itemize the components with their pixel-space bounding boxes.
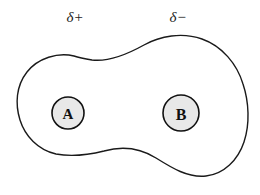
partial-positive-label: δ+ bbox=[66, 9, 83, 25]
electron-cloud-svg: A B δ+ δ− bbox=[0, 0, 260, 195]
atom-label-b: B bbox=[176, 106, 187, 123]
electron-cloud-outline bbox=[17, 35, 248, 176]
atom-label-a: A bbox=[63, 106, 74, 122]
polar-bond-diagram: A B δ+ δ− bbox=[0, 0, 260, 195]
partial-negative-label: δ− bbox=[169, 9, 186, 25]
